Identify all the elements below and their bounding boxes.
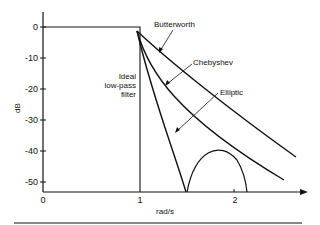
elliptic-label: Elliptic: [220, 88, 243, 97]
chebyshev-arrow-icon: [165, 80, 170, 86]
filter-response-chart: 0 -10 -20 -30 -40 -50 0 1 2 dB rad/s But…: [0, 0, 320, 225]
butterworth-label: Butterworth: [154, 20, 195, 29]
ideal-label-line1: Ideal: [119, 72, 137, 81]
x-tick-1: 1: [137, 195, 142, 205]
elliptic-curve-main: [137, 31, 186, 192]
ideal-label-line2: low-pass: [104, 81, 136, 90]
chebyshev-label: Chebyshev: [193, 58, 233, 67]
x-tick-2: 2: [232, 195, 237, 205]
elliptic-curve-lobe: [187, 150, 247, 192]
y-tick-50: -50: [25, 177, 38, 187]
y-axis-label: dB: [13, 103, 22, 113]
y-tick-30: -30: [25, 115, 38, 125]
x-axis-arrow-icon: [300, 189, 308, 195]
ideal-label-line3: filter: [121, 90, 136, 99]
chebyshev-leader: [167, 64, 192, 84]
elliptic-arrow-icon: [175, 127, 180, 133]
y-tick-40: -40: [25, 146, 38, 156]
y-tick-0: 0: [33, 22, 38, 32]
x-tick-0: 0: [40, 195, 45, 205]
y-tick-20: -20: [25, 84, 38, 94]
ideal-filter-line: [43, 27, 140, 192]
chebyshev-curve: [137, 31, 284, 180]
y-tick-10: -10: [25, 53, 38, 63]
x-axis-label: rad/s: [156, 207, 174, 216]
butterworth-leader: [160, 30, 173, 51]
elliptic-leader: [177, 93, 218, 131]
